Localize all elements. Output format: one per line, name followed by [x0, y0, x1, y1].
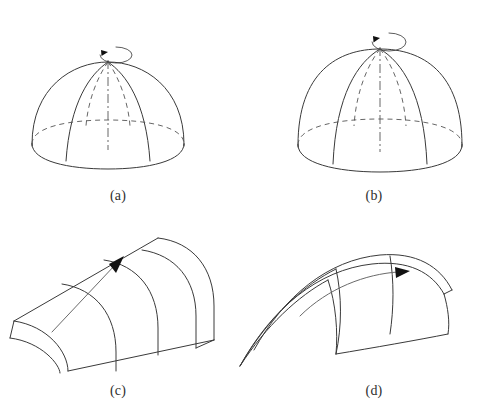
- dome-outline-b: [298, 49, 462, 145]
- arch-near-tip-c: [10, 321, 14, 338]
- meridian-back-left-b: [354, 49, 380, 126]
- arch-near-inner-c: [10, 338, 60, 373]
- bottom-edge-c: [68, 340, 214, 371]
- panel-c-barrel-vault: [8, 228, 238, 373]
- bottom-edge-d: [336, 334, 448, 354]
- cross-section-2-d: [390, 256, 393, 334]
- meridian-front-right-a: [108, 62, 150, 161]
- meridian-front-left-b: [333, 49, 380, 164]
- far-end-edge-d: [444, 290, 452, 294]
- meridian-front-right-b: [380, 49, 427, 164]
- ridge-line-c: [14, 238, 158, 321]
- arch-far-inner-c: [142, 250, 196, 348]
- far-end-edge-c: [196, 340, 214, 348]
- sweep-arrow-c: [52, 256, 124, 332]
- ridge-line-d: [240, 263, 444, 366]
- caption-d: (d): [334, 383, 414, 399]
- caption-a: (a): [78, 188, 158, 204]
- arch-near-outer-c: [14, 321, 68, 371]
- panel-d-curved-vault: [232, 238, 462, 378]
- cross-section-1-c: [62, 284, 116, 371]
- arch-far-d: [444, 294, 449, 334]
- meridian-back-right-b: [380, 49, 406, 126]
- arch-near-inner-d: [240, 280, 328, 366]
- cross-section-2-c: [104, 260, 158, 355]
- arch-far-c: [158, 238, 214, 340]
- panel-a-dome-shallow: [20, 22, 230, 187]
- caption-c: (c): [78, 383, 158, 399]
- meridian-front-left-a: [66, 62, 108, 161]
- caption-b: (b): [334, 188, 414, 204]
- rotation-arrow-icon-b: [372, 33, 406, 51]
- panel-b-dome-tall: [276, 12, 485, 187]
- surface-back-edge-d: [254, 255, 452, 350]
- figure-root: (a) (b): [0, 0, 485, 420]
- rotation-arrow-icon-a: [100, 47, 132, 63]
